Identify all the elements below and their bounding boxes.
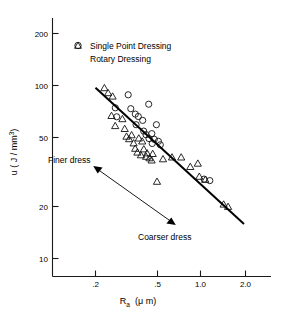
y-tick-label-50: 50 (39, 134, 48, 143)
data-point-triangle (101, 84, 108, 90)
trend-line (96, 88, 245, 224)
y-tick-labels: 200 100 50 20 10 (35, 30, 49, 264)
chart-figure: 200 100 50 20 10 .2 .5 1.0 2.0 u ( J / m… (0, 0, 282, 318)
data-point-triangle (194, 160, 201, 166)
data-point-circle (140, 117, 146, 123)
data-point-circle (125, 92, 131, 98)
x-tick-marks (96, 271, 246, 277)
legend-label-rotary-dressing: Rotary Dressing (90, 54, 151, 64)
chart-legend: Single Point Dressing Rotary Dressing (75, 41, 172, 64)
x-axis-title: Ra (μ m) (120, 296, 156, 308)
x-tick-labels: .2 .5 1.0 2.0 (92, 280, 251, 289)
coarser-dress-arrow-head (166, 217, 175, 225)
y-axis-title: u ( J / mm3) (8, 129, 19, 176)
y-tick-label-20: 20 (39, 203, 48, 212)
data-point-triangle (153, 178, 160, 184)
dress-direction-annotation: Finer dress Coarser dress (48, 155, 191, 242)
x-tick-label-0.5: .5 (154, 280, 161, 289)
data-point-circle (146, 101, 152, 107)
x-tick-label-1.0: 1.0 (195, 280, 207, 289)
data-point-circle (128, 106, 134, 112)
x-axis-title-unit-text: (μ m) (135, 296, 156, 306)
legend-label-single-point-dressing: Single Point Dressing (90, 41, 172, 51)
y-tick-label-200: 200 (35, 30, 49, 39)
coarser-dress-label: Coarser dress (138, 232, 191, 242)
data-point-triangle (130, 140, 137, 146)
y-axis-title-tail: ) (9, 129, 19, 132)
data-point-triangle (159, 156, 166, 162)
series-rotary-dressing (101, 84, 232, 209)
data-point-triangle (121, 125, 128, 131)
data-point-circle (153, 122, 159, 128)
finer-dress-label: Finer dress (48, 155, 91, 165)
y-tick-label-10: 10 (39, 255, 48, 264)
x-tick-label-2.0: 2.0 (240, 280, 252, 289)
scatter-plot: 200 100 50 20 10 .2 .5 1.0 2.0 u ( J / m… (0, 0, 282, 318)
dress-direction-arrow-shaft (97, 169, 173, 223)
finer-dress-arrow-head (93, 166, 102, 174)
y-tick-label-100: 100 (35, 82, 49, 91)
data-point-triangle (196, 173, 203, 179)
y-tick-marks (53, 34, 59, 259)
data-point-triangle (178, 154, 185, 160)
x-tick-label-0.2: .2 (92, 280, 99, 289)
data-point-triangle (187, 163, 194, 169)
data-point-triangle (112, 122, 119, 128)
y-axis-title-base: u ( J / mm (9, 135, 19, 175)
